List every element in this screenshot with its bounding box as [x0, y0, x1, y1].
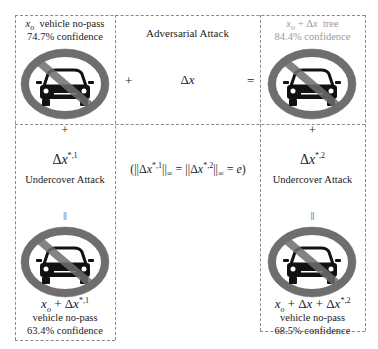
- result-right-caption: xo + Δx + Δx*,2 vehicle no-pass 68.5% co…: [260, 297, 365, 337]
- no-passing-sign-icon: [6, 44, 124, 124]
- original-panel-caption: xo vehicle no-pass 74.7% confidence: [15, 17, 115, 43]
- result-right-label: xo + Δx + Δx*,2: [260, 297, 365, 311]
- original-label: xo vehicle no-pass: [15, 17, 115, 30]
- result-left-class: vehicle no-pass: [15, 311, 115, 324]
- equals-sign-left: ||: [15, 210, 115, 220]
- grid-line-top: [15, 15, 365, 16]
- no-passing-sign-icon: [253, 44, 371, 124]
- norm-constraint: (||Δx*,1||∞ = ||Δx*,2||∞ = e): [113, 162, 263, 177]
- undercover-left-title: Undercover Attack: [15, 174, 115, 185]
- result-left-confidence: 63.4% confidence: [15, 324, 115, 337]
- no-passing-sign-icon: [6, 222, 124, 302]
- undercover-left-perturbation: Δx*,1: [15, 152, 115, 168]
- adversarial-result-confidence: 84.4% confidence: [260, 30, 365, 43]
- undercover-right-perturbation: Δx*,2: [260, 152, 365, 168]
- adversarial-title: Adversarial Attack: [115, 27, 260, 39]
- grid-line-bottom-left: [15, 340, 115, 341]
- undercover-right-title: Undercover Attack: [260, 174, 365, 185]
- result-left-label: xo + Δx*,1: [15, 297, 115, 311]
- adversarial-result-caption: xo + Δx tree 84.4% confidence: [260, 17, 365, 43]
- adversarial-result-label: xo + Δx tree: [260, 17, 365, 30]
- equals-sign-right: ||: [260, 210, 365, 220]
- original-confidence: 74.7% confidence: [15, 30, 115, 43]
- adversarial-perturbation: Δx: [115, 72, 260, 88]
- plus-sign-left: +: [15, 123, 115, 138]
- no-passing-sign-icon: [253, 222, 371, 302]
- result-right-confidence: 68.5% confidence: [260, 324, 365, 337]
- result-left-caption: xo + Δx*,1 vehicle no-pass 63.4% confide…: [15, 297, 115, 337]
- result-right-class: vehicle no-pass: [260, 311, 365, 324]
- plus-sign-right: +: [260, 123, 365, 138]
